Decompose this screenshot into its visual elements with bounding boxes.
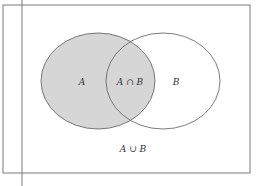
venn-diagram: A A ∩ B B A ∪ B	[0, 0, 258, 186]
union-label: A ∪ B	[119, 144, 147, 154]
set-a-label: A	[78, 77, 86, 87]
intersection-label: A ∩ B	[116, 77, 144, 87]
set-b-label: B	[172, 77, 180, 87]
